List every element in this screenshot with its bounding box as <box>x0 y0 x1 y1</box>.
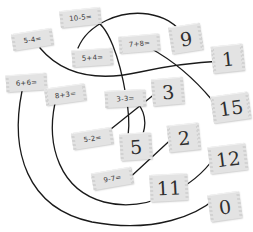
eq-3-3[interactable]: 3-3= <box>105 89 146 108</box>
ans-9[interactable]: 9 <box>168 23 203 55</box>
ans-5-label: 5 <box>129 137 142 157</box>
ans-12-label: 12 <box>215 148 241 170</box>
eq-10-5[interactable]: 10-5= <box>59 7 101 28</box>
eq-3-3-label: 3-3= <box>116 95 134 103</box>
eq-6p6-label: 6+6= <box>16 79 38 87</box>
ans-1-label: 1 <box>221 49 235 69</box>
eq-9-7[interactable]: 9-7= <box>91 167 133 191</box>
eq-10-5-label: 10-5= <box>69 13 92 22</box>
ans-5[interactable]: 5 <box>119 132 152 161</box>
ans-2-label: 2 <box>177 128 191 148</box>
ans-3-label: 3 <box>161 82 175 102</box>
eq-9-7-label: 9-7= <box>103 174 122 184</box>
ans-15[interactable]: 15 <box>210 92 250 124</box>
ans-2[interactable]: 2 <box>167 122 201 152</box>
eq-7p8[interactable]: 7+8= <box>118 33 159 53</box>
ans-15-label: 15 <box>218 97 245 119</box>
eq-5p4[interactable]: 5+4= <box>71 48 112 68</box>
ans-1[interactable]: 1 <box>211 43 245 73</box>
eq-8p3[interactable]: 8+3= <box>44 83 86 105</box>
ans-11-label: 11 <box>156 178 181 198</box>
ans-12[interactable]: 12 <box>207 143 247 174</box>
ans-0-label: 0 <box>218 197 233 217</box>
matching-worksheet: 10-5=5-4=5+4=7+8=6+6=8+3=3-3=5-2=9-7= 91… <box>0 0 253 232</box>
eq-5-2-label: 5-2= <box>83 134 102 144</box>
link-6p6-to-0 <box>18 91 216 226</box>
ans-9-label: 9 <box>179 29 194 50</box>
eq-5p4-label: 5+4= <box>82 54 104 62</box>
eq-5-4-label: 5-4= <box>23 35 42 45</box>
eq-6p6[interactable]: 6+6= <box>5 73 46 93</box>
eq-7p8-label: 7+8= <box>129 40 151 49</box>
ans-3[interactable]: 3 <box>151 77 184 107</box>
eq-5-4[interactable]: 5-4= <box>11 28 53 51</box>
eq-5-2[interactable]: 5-2= <box>71 127 113 150</box>
eq-8p3-label: 8+3= <box>54 90 76 100</box>
ans-11[interactable]: 11 <box>149 173 187 202</box>
ans-0[interactable]: 0 <box>207 191 241 222</box>
